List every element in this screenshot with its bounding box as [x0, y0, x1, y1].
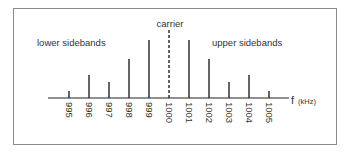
tick-label: 995 [64, 102, 75, 118]
tick-label: 1001 [184, 102, 195, 123]
tick-label: 1000 [164, 102, 175, 123]
tick-label: 1005 [264, 102, 275, 123]
tick-label: 1002 [204, 102, 215, 123]
tick-label: 997 [104, 102, 115, 118]
spectrum-diagram: 995996997998999100010011002100310041005 … [0, 0, 350, 155]
tick-labels: 995996997998999100010011002100310041005 [64, 102, 275, 123]
tick-label: 996 [84, 102, 95, 118]
tick-label: 1004 [244, 102, 255, 123]
tick-label: 999 [144, 102, 155, 118]
axis-f-label: f [291, 94, 295, 106]
upper-sidebands-label: upper sidebands [212, 37, 282, 48]
axis-unit-label: (kHz) [298, 97, 316, 106]
lower-sidebands-label: lower sidebands [37, 37, 106, 48]
tick-label: 1003 [224, 102, 235, 123]
tick-label: 998 [124, 102, 135, 118]
carrier-label: carrier [157, 18, 184, 29]
